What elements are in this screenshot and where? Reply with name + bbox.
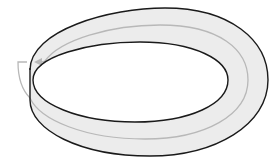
mobius-strip-diagram [0,0,280,166]
centerline-bracket [18,62,30,98]
band-fill [30,8,268,156]
inner-edge [33,42,228,122]
